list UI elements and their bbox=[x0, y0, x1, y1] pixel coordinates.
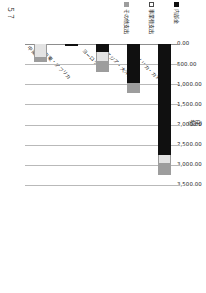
gridline bbox=[25, 165, 180, 166]
bar-row bbox=[96, 44, 109, 72]
bar-row bbox=[65, 44, 78, 46]
gridline bbox=[25, 84, 180, 85]
legend-item: 内部金 bbox=[173, 2, 180, 42]
legend-item-label: 内部金 bbox=[174, 9, 179, 24]
legend-item: その他支出 bbox=[123, 2, 130, 42]
bar-segment bbox=[34, 57, 47, 62]
legend-item-label: その他支出 bbox=[124, 9, 129, 34]
gridline bbox=[25, 145, 180, 146]
bar-row bbox=[127, 44, 140, 93]
gridline bbox=[25, 185, 180, 186]
x-axis-tick-label: 2,500.00 bbox=[177, 141, 202, 147]
legend-item-label: 事業費支出 bbox=[149, 9, 154, 34]
bar-segment bbox=[34, 44, 47, 57]
rotated-figure-container: (億円) 0.00500.001,000.001,500.002,000.002… bbox=[0, 0, 206, 293]
plot-area bbox=[25, 44, 180, 185]
x-axis-tick-label: 2,000.00 bbox=[177, 121, 202, 127]
x-axis-tick-label: 3,500.00 bbox=[177, 181, 202, 187]
page-number-mark: ５７ bbox=[6, 6, 16, 20]
gray-square-icon bbox=[124, 2, 129, 7]
bar-segment bbox=[158, 44, 171, 155]
bar-row bbox=[158, 44, 171, 175]
bar-segment bbox=[127, 44, 140, 83]
bar-segment bbox=[158, 155, 171, 163]
x-axis-tick-label: 3,000.00 bbox=[177, 161, 202, 167]
black-square-icon bbox=[174, 2, 179, 7]
bar-segment bbox=[158, 163, 171, 174]
bar-row bbox=[34, 44, 47, 62]
white-square-icon bbox=[149, 2, 154, 7]
gridline bbox=[25, 104, 180, 105]
bar-segment bbox=[127, 83, 140, 92]
bar-segment bbox=[65, 44, 78, 46]
bar-segment bbox=[96, 61, 109, 72]
x-axis-tick-label: 1,000.00 bbox=[177, 81, 202, 87]
legend-item: 事業費支出 bbox=[148, 2, 155, 42]
bar-segment bbox=[96, 44, 109, 52]
gridline bbox=[25, 125, 180, 126]
chart-legend: 内部金事業費支出その他支出 bbox=[105, 2, 180, 42]
x-axis-tick-label: 1,500.00 bbox=[177, 101, 202, 107]
bar-segment bbox=[96, 52, 109, 62]
bar-chart: (億円) 0.00500.001,000.001,500.002,000.002… bbox=[0, 0, 206, 293]
